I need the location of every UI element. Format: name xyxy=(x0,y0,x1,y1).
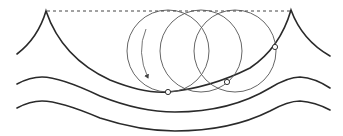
lower-wave xyxy=(17,101,330,131)
surface-wave xyxy=(17,10,330,92)
orbit-circle-3 xyxy=(194,10,276,92)
middle-wave xyxy=(17,77,330,112)
wave-diagram xyxy=(0,0,343,136)
particle-marker-1 xyxy=(165,89,170,94)
diagram-canvas xyxy=(0,0,343,136)
orbit-circle-2 xyxy=(160,10,242,92)
orbit-circle-1 xyxy=(127,10,209,92)
particle-marker-2 xyxy=(224,79,229,84)
rotation-arrow-icon xyxy=(141,29,148,78)
particle-marker-3 xyxy=(272,44,277,49)
